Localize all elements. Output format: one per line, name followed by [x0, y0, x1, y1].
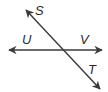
label-t: T: [88, 62, 97, 77]
label-s: S: [35, 3, 44, 18]
label-v: V: [80, 32, 90, 47]
intersecting-lines-diagram: S U V T: [0, 0, 108, 92]
label-u: U: [22, 32, 32, 47]
